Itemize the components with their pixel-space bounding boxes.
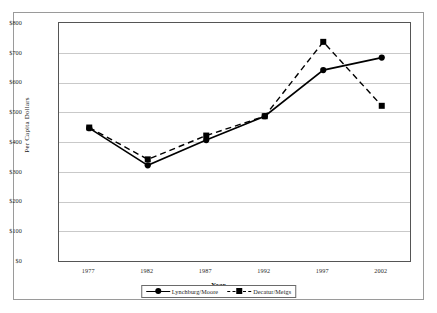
series-layer xyxy=(59,23,410,261)
x-tick-label: 1987 xyxy=(175,267,235,274)
y-tick-label: $500 xyxy=(0,109,22,115)
x-tick-label: 1992 xyxy=(234,267,294,274)
y-axis-label: Per Capita Dollars xyxy=(23,55,31,195)
data-point-marker xyxy=(203,133,209,139)
y-tick-label: $800 xyxy=(0,20,22,26)
y-tick-label: $300 xyxy=(0,169,22,175)
y-tick-label: $0 xyxy=(0,258,22,264)
chart-figure: Per Capita Dollars $800$700$600$500$400$… xyxy=(13,12,424,300)
series-line xyxy=(89,58,382,166)
chart-legend: Lynchburg/MooreDecatur/Meigs xyxy=(141,285,297,298)
y-tick-label: $200 xyxy=(0,198,22,204)
series-line xyxy=(89,42,382,160)
data-point-marker xyxy=(86,125,92,131)
data-point-marker xyxy=(262,113,268,119)
y-tick-label: $400 xyxy=(0,139,22,145)
y-tick-label: $600 xyxy=(0,79,22,85)
data-point-marker xyxy=(379,103,385,109)
legend-label: Lynchburg/Moore xyxy=(172,288,218,295)
data-point-marker xyxy=(379,55,385,61)
legend-entry: Lynchburg/Moore xyxy=(146,287,218,295)
plot-area xyxy=(58,22,411,262)
legend-label: Decatur/Meigs xyxy=(253,288,291,295)
data-point-marker xyxy=(145,162,151,168)
data-point-marker xyxy=(320,67,326,73)
data-point-marker xyxy=(320,39,326,45)
legend-entry: Decatur/Meigs xyxy=(227,287,291,295)
x-tick-label: 2002 xyxy=(351,267,411,274)
y-tick-label: $700 xyxy=(0,50,22,56)
series-svg xyxy=(59,23,412,263)
y-tick-label: $100 xyxy=(0,228,22,234)
x-tick-label: 1977 xyxy=(58,267,118,274)
x-tick-label: 1982 xyxy=(117,267,177,274)
legend-key-icon xyxy=(146,287,170,295)
x-tick-label: 1997 xyxy=(292,267,352,274)
legend-key-icon xyxy=(227,287,251,295)
data-point-marker xyxy=(145,156,151,162)
